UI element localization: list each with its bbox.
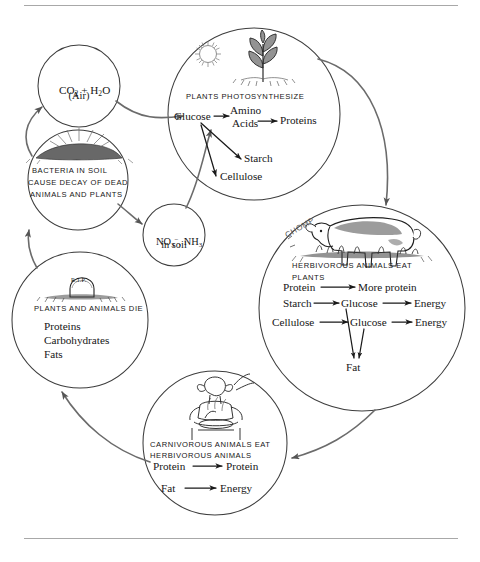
connector-plants-to-herbivores xyxy=(318,59,388,205)
death-item-carbohydrates: Carbohydrates xyxy=(44,334,109,347)
herbivores-protein-label: Protein xyxy=(283,281,315,294)
figure-canvas: CO2 + H2O (Air) BACTERIA IN SOIL CAUSE D… xyxy=(0,0,480,562)
plants-glucose-label: Glucose xyxy=(174,110,211,123)
plants-starch-label: Starch xyxy=(244,152,273,165)
bacteria-caption-line3: ANIMALS AND PLANTS xyxy=(30,191,123,200)
carnivores-caption-line1: CARNIVOROUS ANIMALS EAT xyxy=(150,441,271,450)
carnivores-protein-out-label: Protein xyxy=(226,460,258,473)
death-item-proteins: Proteins xyxy=(44,320,81,333)
bacteria-caption-line2: CAUSE DECAY OF DEAD xyxy=(28,179,128,188)
herbivores-cellulose-label: Cellulose xyxy=(272,316,314,329)
herbivores-fat-label: Fat xyxy=(346,361,360,374)
plants-amino-acids-line1: Amino xyxy=(230,104,261,117)
herbivores-glucose-1-label: Glucose xyxy=(341,297,378,310)
connector-air-to-plants xyxy=(116,101,183,118)
person-eating-icon xyxy=(190,374,254,440)
connector-carnivores-to-death xyxy=(62,392,150,462)
carnivores-energy-out-label: Energy xyxy=(220,482,252,495)
sun-icon xyxy=(195,41,221,67)
soil-nutrients-location: in soil xyxy=(140,239,208,251)
plant-seedling-icon xyxy=(233,30,295,86)
herbivores-energy-2-label: Energy xyxy=(415,316,447,329)
bacteria-caption-line1: BACTERIA IN SOIL xyxy=(32,167,107,176)
connector-bacteria-to-soil-nutrients xyxy=(118,204,142,224)
arrow-glucose-to-cellulose xyxy=(201,125,216,176)
connector-soil-nutrients-to-plants xyxy=(186,130,211,208)
herbivores-starch-label: Starch xyxy=(283,297,312,310)
herbivores-energy-1-label: Energy xyxy=(414,297,446,310)
death-item-fats: Fats xyxy=(44,348,63,361)
carnivores-fat-in-label: Fat xyxy=(161,482,175,495)
rip-text: R.I.P. xyxy=(71,277,87,284)
herbivores-caption-line1: HERBIVOROUS ANIMALS EAT xyxy=(292,262,412,271)
plants-cellulose-label: Cellulose xyxy=(220,170,262,183)
connector-herbivores-to-carnivores xyxy=(292,410,375,458)
arrow-h-glucose-to-fat-b xyxy=(359,329,364,358)
herbivores-glucose-2-label: Glucose xyxy=(350,316,387,329)
connector-death-to-bacteria xyxy=(28,230,37,268)
plants-caption: PLANTS PHOTOSYNTHESIZE xyxy=(186,93,304,102)
carnivores-protein-in-label: Protein xyxy=(153,460,185,473)
herbivores-more-protein-label: More protein xyxy=(358,281,417,294)
air-state-label: (Air) xyxy=(40,90,118,102)
plants-proteins-label: Proteins xyxy=(280,114,317,127)
plants-amino-acids-line2: Acids xyxy=(232,117,258,130)
death-caption: PLANTS AND ANIMALS DIE xyxy=(34,305,143,314)
